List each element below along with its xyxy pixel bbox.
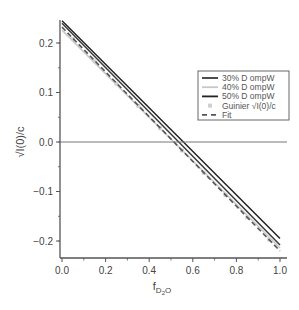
chart: 0.20.10.0−0.1−0.2 0.00.20.40.60.81.0 √I(… — [0, 0, 299, 310]
x-axis-label: fD2O — [153, 280, 171, 296]
series-line — [62, 23, 280, 245]
x-tick-label: 1.0 — [273, 265, 287, 276]
legend-label: Fit — [222, 110, 232, 120]
y-tick-label: 0.2 — [39, 38, 53, 49]
x-tick-label: 0.0 — [55, 265, 69, 276]
axes: 0.20.10.0−0.1−0.2 0.00.20.40.60.81.0 — [33, 20, 287, 276]
y-tick-label: −0.1 — [33, 186, 53, 197]
legend: 30% D ompW40% D ompW50% D ompWGuinier √I… — [198, 71, 289, 120]
x-tick-label: 0.4 — [142, 265, 156, 276]
x-tick-label: 0.8 — [229, 265, 243, 276]
y-ticks: 0.20.10.0−0.1−0.2 — [33, 38, 60, 247]
y-tick-label: 0.1 — [39, 87, 53, 98]
y-tick-label: −0.2 — [33, 236, 53, 247]
x-ticks: 0.00.20.40.60.81.0 — [55, 258, 287, 276]
legend-swatch — [208, 104, 212, 108]
x-tick-label: 0.2 — [99, 265, 113, 276]
y-axis-label: √I(0)/c — [14, 126, 26, 158]
y-tick-label: 0.0 — [39, 137, 53, 148]
series-line — [62, 21, 280, 239]
x-tick-label: 0.6 — [186, 265, 200, 276]
series-layer — [62, 21, 280, 251]
